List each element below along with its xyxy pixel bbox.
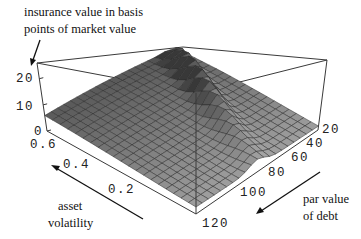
y-tick-0.6: 0.6	[30, 138, 57, 152]
z-tick-mark	[39, 78, 43, 79]
z-tick-0: 0	[34, 125, 43, 139]
z-tick-20: 20	[16, 72, 34, 86]
y-axis-label-line2: volatility	[48, 216, 93, 231]
z-axis-label-line1: insurance value in basis	[24, 5, 143, 20]
box-top-back-right	[183, 47, 327, 60]
x-axis-label-line2: of debt	[303, 209, 338, 224]
x-tick-120: 120	[202, 217, 229, 231]
x-tick-20: 20	[322, 123, 340, 137]
z-arrow-head	[30, 58, 36, 66]
x-tick-100: 100	[240, 186, 267, 200]
z-axis-arrow	[33, 40, 40, 60]
x-tick-40: 40	[306, 137, 324, 151]
y-tick-0.2: 0.2	[108, 183, 135, 197]
x-axis-label-line1: par value	[303, 192, 349, 207]
x-tick-80: 80	[268, 166, 286, 180]
debt-arrow-head	[256, 207, 264, 214]
x-tick-60: 60	[291, 151, 309, 165]
z-axis-label-line2: points of market value	[24, 22, 136, 37]
y-tick-0.4: 0.4	[63, 158, 90, 172]
y-axis-label-line1: asset	[58, 199, 82, 214]
z-tick-10: 10	[16, 100, 34, 114]
z-tick-mark	[43, 104, 47, 105]
box-right-vertical	[318, 60, 327, 130]
box-left-vertical	[37, 63, 47, 131]
z-tick-mark	[47, 130, 51, 131]
